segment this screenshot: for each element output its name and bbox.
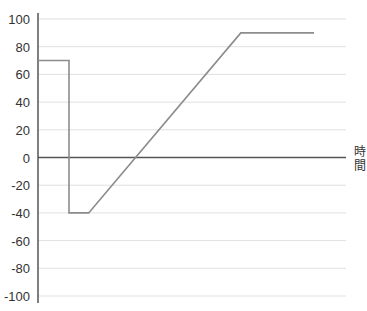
y-tick-label: 40 — [16, 95, 30, 110]
y-tick-label: -20 — [11, 178, 30, 193]
y-axis-ticks: 100806040200-20-40-60-80-100 — [4, 12, 30, 304]
line-chart: 100806040200-20-40-60-80-100 時 間 — [0, 0, 367, 311]
y-tick-label: 60 — [16, 67, 30, 82]
y-tick-label: 80 — [16, 40, 30, 55]
y-tick-label: 0 — [23, 151, 30, 166]
y-tick-label: -60 — [11, 234, 30, 249]
y-tick-label: -100 — [4, 289, 30, 304]
y-tick-label: 100 — [8, 12, 30, 27]
y-tick-label: -40 — [11, 206, 30, 221]
y-tick-label: -80 — [11, 261, 30, 276]
x-axis-label-part1: 時 — [354, 145, 366, 159]
data-line — [38, 33, 314, 213]
x-axis-label-part2: 間 — [354, 159, 366, 173]
y-tick-label: 20 — [16, 123, 30, 138]
